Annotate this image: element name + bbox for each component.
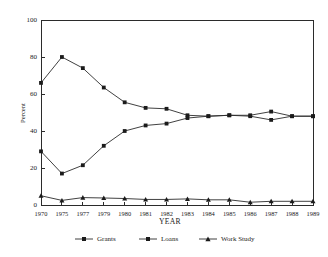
y-axis-ticks: 020406080100 [27,16,46,209]
data-point [248,113,252,117]
x-tick-label: 1986 [244,210,257,217]
chart-legend: GrantsLoansWork Study [75,235,255,243]
x-tick-label: 1985 [223,210,236,217]
chart-container: 020406080100 197019751977197919801981198… [0,0,328,257]
y-tick-label: 80 [30,53,38,61]
data-point [144,124,148,128]
line-chart: 020406080100 197019751977197919801981198… [0,0,328,257]
data-point [123,100,127,104]
data-point [144,106,148,110]
y-axis-title: Percent [19,103,26,123]
data-point [311,114,315,118]
x-tick-label: 1977 [76,210,90,217]
data-point [39,149,43,153]
data-point [290,114,294,118]
legend-item-loans[interactable]: Loans [139,235,178,243]
data-point [81,66,85,70]
x-axis-ticks: 1970197519771979198019811982198319841985… [35,202,320,217]
x-tick-label: 1981 [139,210,152,217]
data-point [81,163,85,167]
y-tick-label: 0 [34,201,38,209]
legend-item-grants[interactable]: Grants [75,235,116,243]
x-tick-label: 1989 [307,210,320,217]
legend-marker [82,237,86,241]
legend-item-work-study[interactable]: Work Study [199,235,255,243]
x-tick-label: 1987 [265,210,279,217]
legend-marker [146,237,150,241]
data-point [39,193,44,198]
series-work-study [39,193,316,204]
data-point [102,144,106,148]
y-tick-label: 100 [27,16,38,24]
x-tick-label: 1980 [118,210,131,217]
x-tick-label: 1988 [286,210,299,217]
x-tick-label: 1970 [35,210,48,217]
x-axis-title: YEAR [159,217,182,226]
data-point [60,55,64,59]
series-layer [39,55,316,204]
y-tick-label: 20 [30,164,38,172]
data-point [269,110,273,114]
legend-label: Work Study [221,235,255,243]
data-point [165,122,169,126]
x-tick-label: 1982 [160,210,173,217]
y-tick-label: 40 [30,127,38,135]
data-point [39,81,43,85]
y-tick-label: 60 [30,90,38,98]
data-point [60,172,64,176]
x-tick-label: 1984 [202,210,216,217]
x-tick-label: 1979 [97,210,110,217]
data-point [186,116,190,120]
x-tick-label: 1983 [181,210,194,217]
data-point [123,129,127,133]
legend-label: Loans [161,235,178,243]
data-point [206,114,210,118]
data-point [227,113,231,117]
data-point [102,86,106,90]
data-point [165,107,169,111]
x-tick-label: 1975 [56,210,69,217]
data-point [269,118,273,122]
legend-label: Grants [97,235,116,243]
